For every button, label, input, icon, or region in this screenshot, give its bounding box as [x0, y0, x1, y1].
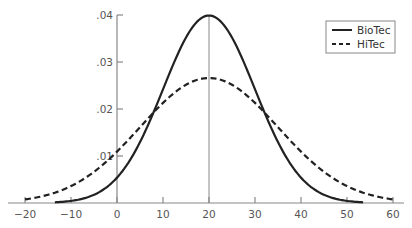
legend: BioTec HiTec — [326, 21, 395, 53]
y-tick-label: .03 — [96, 56, 113, 68]
x-tick-label: 60 — [386, 208, 399, 220]
y-tick-label: .01 — [96, 150, 113, 162]
y-tick-label: .02 — [96, 103, 113, 115]
x-tick-label: 50 — [340, 208, 353, 220]
legend-label-biotec: BioTec — [357, 24, 391, 36]
x-tick-label: 30 — [248, 208, 261, 220]
x-tick-label: 40 — [294, 208, 307, 220]
y-tick-label: .04 — [96, 9, 113, 21]
x-tick-label: −20 — [14, 208, 36, 220]
x-tick-label: −10 — [60, 208, 82, 220]
normal-distribution-chart: .01.02.03.04 −20−100102030405060 BioTec … — [0, 0, 412, 228]
legend-label-hitec: HiTec — [357, 38, 385, 50]
x-tick-label: 10 — [156, 208, 169, 220]
x-tick-label: 0 — [114, 208, 121, 220]
x-tick-label: 20 — [202, 208, 215, 220]
y-axis-ticks: .01.02.03.04 — [96, 9, 123, 162]
